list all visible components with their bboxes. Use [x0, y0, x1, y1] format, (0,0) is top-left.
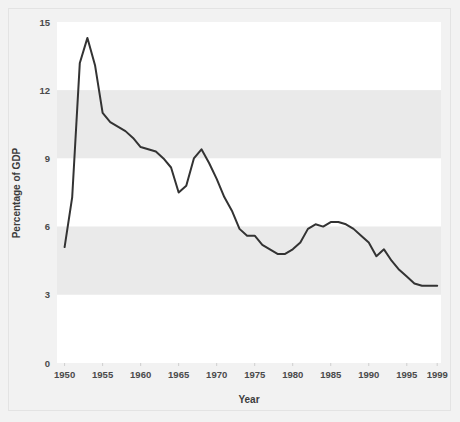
x-tick-label: 1975: [244, 369, 266, 380]
x-tick-label: 1950: [54, 369, 75, 380]
x-axis-title: Year: [238, 394, 259, 405]
background-band: [57, 158, 441, 226]
y-axis-tick-labels: 03691215: [39, 17, 50, 369]
background-band: [57, 227, 441, 295]
x-tick-label: 1995: [396, 369, 418, 380]
chart-figure: 03691215 1950195519601965197019751980198…: [0, 0, 460, 422]
x-axis-tick-marks: [65, 363, 438, 366]
y-tick-label: 12: [39, 85, 50, 96]
background-band: [57, 295, 441, 363]
chart-plot-svg: 03691215 1950195519601965197019751980198…: [0, 0, 460, 422]
y-tick-label: 15: [39, 17, 50, 28]
y-tick-label: 0: [45, 358, 50, 369]
x-tick-label: 1955: [92, 369, 114, 380]
y-tick-label: 3: [45, 289, 50, 300]
y-axis-title: Percentage of GDP: [11, 147, 22, 238]
x-tick-label: 1980: [282, 369, 303, 380]
y-tick-label: 6: [45, 221, 50, 232]
background-band: [57, 22, 441, 90]
y-tick-label: 9: [45, 153, 50, 164]
x-tick-label: 1990: [358, 369, 379, 380]
x-tick-label: 1999: [427, 369, 448, 380]
x-axis-tick-labels: 1950195519601965197019751980198519901995…: [54, 369, 448, 380]
x-tick-label: 1985: [320, 369, 342, 380]
x-tick-label: 1965: [168, 369, 190, 380]
background-bands: [57, 22, 441, 363]
x-tick-label: 1970: [206, 369, 227, 380]
x-tick-label: 1960: [130, 369, 151, 380]
